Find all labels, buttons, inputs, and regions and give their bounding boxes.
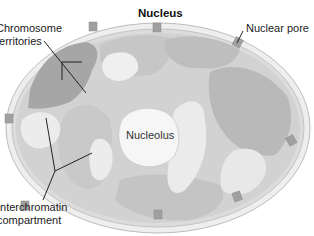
label-interchromatin-line2: compartment [0,214,67,227]
label-chromosome-line2: territories [0,35,62,48]
nuclear-pore-icon [89,22,97,31]
nuclear-pore-icon [153,23,161,32]
label-chromosome-line1: Chromosome [0,22,62,35]
label-interchromatin-compartment: Interchromatin compartment [0,201,67,227]
nucleus-diagram: Nucleus Chromosome territories Nuclear p… [0,0,314,236]
nuclear-pore-icon [154,210,162,219]
label-chromosome-territories: Chromosome territories [0,22,62,48]
label-interchromatin-line1: Interchromatin [0,201,67,214]
diagram-title: Nucleus [138,7,183,20]
label-nucleolus: Nucleolus [126,129,174,142]
nuclear-pore-icon [5,114,13,123]
label-nuclear-pore: Nuclear pore [246,22,309,35]
